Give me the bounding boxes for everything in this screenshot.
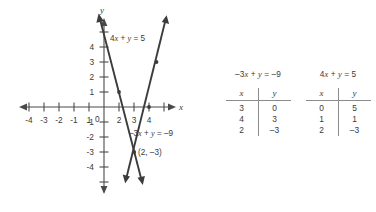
coordinate-graph-panel: x y 0 -4 -3 -2 -1 1 2 3 4 4 3 2 1 -1 -2 … bbox=[0, 0, 212, 212]
x-axis bbox=[19, 103, 176, 112]
coordinate-graph-svg: x y 0 -4 -3 -2 -1 1 2 3 4 4 3 2 1 -1 -2 … bbox=[0, 0, 212, 212]
y-tick-label: -1 bbox=[87, 117, 95, 127]
table-row: 2 –3 bbox=[306, 125, 371, 136]
line1-point-1-1 bbox=[117, 90, 121, 94]
table-cell-x: 4 bbox=[226, 114, 259, 125]
table-cell-x: 3 bbox=[226, 101, 259, 115]
line2-arrow-down bbox=[123, 175, 130, 184]
table-row: 2 –3 bbox=[226, 125, 291, 136]
xy-table: x y 0 5 1 1 2 –3 bbox=[306, 88, 371, 136]
y-tick-label: 4 bbox=[89, 42, 94, 52]
x-tick-label: -4 bbox=[25, 115, 33, 125]
table-cell-y: 1 bbox=[338, 114, 371, 125]
y-tick-label: -4 bbox=[87, 162, 95, 172]
origin-label: 0 bbox=[95, 114, 100, 124]
line2-equation-label: –3x + y = –9 bbox=[129, 129, 174, 138]
x-axis-arrow-right bbox=[168, 104, 176, 111]
line2-arrow-up bbox=[162, 15, 169, 24]
table-1-header-x: x bbox=[226, 88, 259, 101]
x-tick-label: -1 bbox=[70, 115, 78, 125]
x-tick-label: -3 bbox=[40, 115, 48, 125]
y-axis-label: y bbox=[99, 5, 104, 15]
table-row: 4 3 bbox=[226, 114, 291, 125]
x-tick-label: 2 bbox=[117, 115, 122, 125]
table-1-caption: –3x + y = –9 bbox=[216, 69, 300, 79]
table-row: 0 5 bbox=[306, 101, 371, 115]
table-cell-y: 3 bbox=[258, 114, 291, 125]
y-tick-label: 2 bbox=[89, 72, 94, 82]
x-tick-label: 4 bbox=[147, 115, 152, 125]
table-cell-y: 5 bbox=[338, 101, 371, 115]
x-axis-label: x bbox=[178, 102, 183, 112]
xy-table: x y 3 0 4 3 2 –3 bbox=[226, 88, 291, 136]
x-tick-label: -2 bbox=[55, 115, 63, 125]
table-2-header-x: x bbox=[306, 88, 339, 101]
intersection-point-marker bbox=[132, 150, 136, 154]
table-row: 3 0 bbox=[226, 101, 291, 115]
table-cell-x: 1 bbox=[306, 114, 339, 125]
table-cell-y: –3 bbox=[258, 125, 291, 136]
table-2-header-y: y bbox=[338, 88, 371, 101]
table-header-row: x y bbox=[226, 88, 291, 101]
table-header-row: x y bbox=[306, 88, 371, 101]
line1-arrow-down bbox=[138, 176, 145, 185]
table-cell-y: –3 bbox=[338, 125, 371, 136]
line2-point-4-3 bbox=[155, 60, 159, 64]
table-cell-y: 0 bbox=[258, 101, 291, 115]
intersection-point-label: (2, –3) bbox=[138, 148, 162, 157]
table-cell-x: 2 bbox=[306, 125, 339, 136]
table-block-4x: 4x + y = 5 x y 0 5 1 1 2 –3 bbox=[300, 69, 376, 136]
table-1-header-y: y bbox=[258, 88, 291, 101]
line2-point-3-0 bbox=[147, 105, 151, 109]
x-axis-arrow-left bbox=[19, 104, 27, 111]
table-block-minus3x: –3x + y = –9 x y 3 0 4 3 2 –3 bbox=[216, 69, 300, 136]
table-row: 1 1 bbox=[306, 114, 371, 125]
table-2-caption: 4x + y = 5 bbox=[300, 69, 376, 79]
line1-equation-label: 4x + y = 5 bbox=[110, 34, 146, 43]
y-tick-label: -3 bbox=[87, 147, 95, 157]
y-tick-label: 3 bbox=[89, 57, 94, 67]
table-cell-x: 2 bbox=[226, 125, 259, 136]
y-axis-arrow-down bbox=[101, 186, 108, 194]
y-tick-label: -2 bbox=[87, 132, 95, 142]
x-tick-label: 3 bbox=[132, 115, 137, 125]
table-cell-x: 0 bbox=[306, 101, 339, 115]
y-tick-label: 1 bbox=[89, 87, 94, 97]
